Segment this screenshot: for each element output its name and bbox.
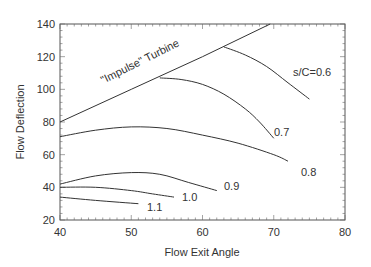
curve-label: 1.1 xyxy=(147,201,162,213)
tick-labels: 405060708020406080100120140 xyxy=(37,18,351,238)
curve-0.8 xyxy=(60,127,288,161)
curve-1.1 xyxy=(60,197,138,204)
x-tick-label: 50 xyxy=(125,226,137,238)
y-tick-label: 140 xyxy=(37,18,55,30)
curve-impulse-turbine xyxy=(60,24,270,122)
y-tick-label: 20 xyxy=(43,214,55,226)
curve-label: 0.9 xyxy=(224,180,239,192)
x-tick-label: 40 xyxy=(54,226,66,238)
curve-0.9 xyxy=(60,173,217,191)
curve-labels: "Impulse" Turbines/C=0.60.70.80.91.01.1 xyxy=(99,37,332,213)
curve-0.7 xyxy=(160,78,274,138)
y-tick-label: 120 xyxy=(37,51,55,63)
curve-1.0 xyxy=(60,187,174,197)
flow-deflection-chart: 405060708020406080100120140 "Impulse" Tu… xyxy=(0,0,371,267)
x-axis-label: Flow Exit Angle xyxy=(164,246,239,258)
x-tick-label: 70 xyxy=(268,226,280,238)
curve-label: 0.7 xyxy=(274,126,289,138)
x-tick-label: 60 xyxy=(196,226,208,238)
curve-label: 0.8 xyxy=(301,166,316,178)
x-tick-label: 80 xyxy=(339,226,351,238)
curves xyxy=(60,24,309,204)
y-tick-label: 60 xyxy=(43,149,55,161)
y-tick-label: 100 xyxy=(37,83,55,95)
axis-ticks xyxy=(60,24,345,220)
plot-area xyxy=(60,24,345,220)
y-tick-label: 40 xyxy=(43,181,55,193)
curve-label: s/C=0.6 xyxy=(293,66,331,78)
y-tick-label: 80 xyxy=(43,116,55,128)
y-axis-label: Flow Deflection xyxy=(14,84,26,159)
curve-label: 1.0 xyxy=(182,191,197,203)
